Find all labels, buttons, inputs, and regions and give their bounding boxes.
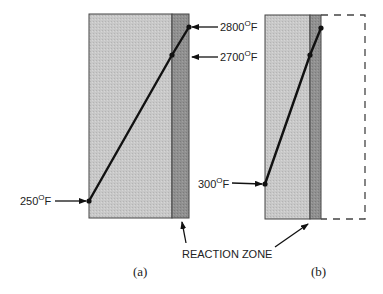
- caption-b: (b): [311, 264, 326, 279]
- data-point-2800: [186, 24, 191, 29]
- thermal-profile-diagram: 2800OF 2700OF 250OF (a) 300OF (b): [0, 0, 383, 294]
- reaction-zone-arrow-b-icon: [275, 224, 308, 247]
- data-point-300: [262, 181, 267, 186]
- data-point-b-mid: [307, 52, 312, 57]
- data-point-b-top: [318, 25, 323, 30]
- wall-region-a: [89, 14, 172, 218]
- original-thickness-outline: [321, 15, 365, 219]
- panel-a: 2800OF 2700OF 250OF (a): [20, 14, 258, 279]
- label-2700: 2700OF: [220, 49, 258, 63]
- label-2800: 2800OF: [220, 19, 258, 33]
- reaction-zone-a: [172, 14, 189, 218]
- data-point-2700: [169, 52, 174, 57]
- arrow-300-icon: [232, 183, 262, 184]
- reaction-zone-b: [310, 15, 321, 219]
- label-250: 250OF: [20, 193, 52, 207]
- reaction-zone-label: REACTION ZONE: [182, 248, 272, 260]
- caption-a: (a): [133, 264, 147, 279]
- label-300: 300OF: [198, 176, 230, 190]
- reaction-zone-arrow-a-icon: [182, 222, 186, 243]
- data-point-250: [86, 198, 91, 203]
